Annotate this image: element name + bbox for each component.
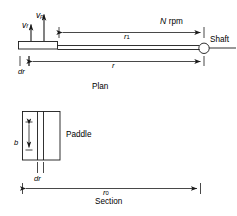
dimension-r1: [59, 27, 204, 38]
dimension-b-symbol: b: [14, 138, 18, 147]
velocity-paddle-label: vp: [36, 4, 44, 22]
dimension-r1-subscript: 1: [127, 34, 130, 40]
dimension-r0-subscript: 0: [106, 190, 109, 196]
velocity-fluid-subscript: f: [26, 23, 28, 29]
rotational-speed-symbol: N: [160, 16, 166, 26]
paddle-plan-body: [19, 42, 58, 50]
section-view-label: Section: [95, 197, 122, 206]
velocity-paddle-subscript: p: [40, 13, 43, 19]
rotational-speed-unit: rpm: [169, 17, 183, 26]
dimension-b-label: b: [14, 131, 18, 149]
dimension-r0: [23, 183, 201, 194]
shaft-label: Shaft: [210, 35, 229, 44]
dimension-r-label: r: [112, 54, 115, 72]
paddle-section-body: [23, 112, 61, 161]
dimension-dr-plan-label: dr: [18, 67, 25, 76]
dimension-dr-section-label: dr: [34, 174, 41, 183]
shaft-circle: [199, 43, 209, 53]
figure-canvas: [0, 0, 237, 216]
rotational-speed-label: Nrpm: [160, 10, 183, 28]
plan-view-label: Plan: [92, 82, 108, 91]
dimension-r1-label: r1: [124, 25, 130, 43]
dimension-r: [29, 56, 204, 66]
velocity-fluid-label: vf: [22, 14, 28, 32]
dimension-dr-plan: [20, 56, 29, 66]
engineering-figure: vf vp Nrpm Shaft r1 r dr Plan Paddle b d…: [0, 0, 237, 216]
dimension-dr-section: [38, 162, 44, 173]
dimension-r-symbol: r: [112, 61, 115, 70]
paddle-label: Paddle: [66, 130, 92, 139]
